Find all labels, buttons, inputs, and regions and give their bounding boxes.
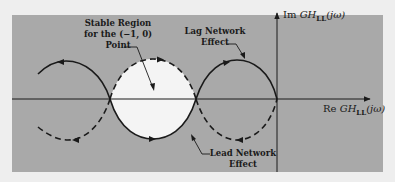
- stable-region-line-2: for the (−1, 0): [73, 29, 163, 40]
- real-axis-func: GH: [340, 103, 357, 114]
- lead-network-line-1: Lead Network: [208, 148, 278, 159]
- stable-region-label: Stable Region for the (−1, 0) Point: [73, 18, 163, 51]
- lead-network-label: Lead Network Effect: [208, 148, 278, 170]
- real-axis-label: Re GHLL(jω): [323, 103, 385, 117]
- imag-axis-subscript: LL: [316, 14, 326, 23]
- real-axis-subscript: LL: [356, 108, 366, 117]
- stable-region-line-1: Stable Region: [73, 18, 163, 29]
- lag-network-line-2: Effect: [180, 37, 250, 48]
- imag-axis-func: GH: [300, 9, 317, 20]
- imag-axis-prefix: Im: [283, 9, 296, 20]
- lead-network-line-2: Effect: [208, 159, 278, 170]
- imag-axis-arg: (jω): [326, 9, 345, 20]
- imag-axis-label: Im GHLL(jω): [283, 9, 345, 23]
- real-axis-arg: (jω): [366, 103, 385, 114]
- lag-network-line-1: Lag Network: [180, 26, 250, 37]
- real-axis-prefix: Re: [323, 103, 336, 114]
- stable-region-line-3: Point: [73, 40, 163, 51]
- lag-network-label: Lag Network Effect: [180, 26, 250, 48]
